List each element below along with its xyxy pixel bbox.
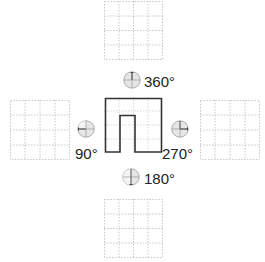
rotation-label-180: 180°: [144, 171, 175, 186]
rotation-label-360: 360°: [144, 74, 175, 89]
answer-grid-top[interactable]: [104, 1, 163, 61]
rotation-label-270: 270°: [162, 146, 193, 161]
answer-grid-left[interactable]: [10, 100, 70, 160]
answer-grid-right[interactable]: [200, 100, 260, 160]
rotation-label-90: 90°: [75, 146, 98, 161]
rotation-dial-180-icon: [122, 168, 140, 186]
rotation-dial-360-icon: [123, 71, 141, 89]
answer-grid-bottom[interactable]: [104, 199, 163, 259]
rotation-dial-90-icon: [77, 120, 95, 138]
rotation-dial-270-icon: [171, 120, 189, 138]
center-shape: [104, 97, 163, 155]
